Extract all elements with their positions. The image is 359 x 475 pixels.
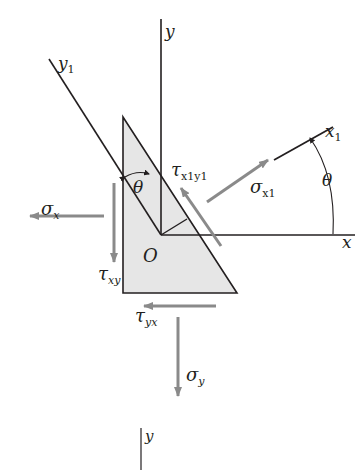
tau-x1y1-label: τx1y1: [171, 159, 207, 183]
tau-yx-label: τyx: [135, 305, 158, 329]
x1-axis-label: x1: [325, 121, 342, 144]
tau-xy-label: τxy: [98, 263, 121, 287]
bottom-y-label: y: [144, 427, 154, 445]
y1-axis-label: y1: [57, 53, 75, 76]
stress-diagram: y y1 x1 x O θ θ σx τxy τyx σy σx1 τx1y1 …: [0, 0, 359, 475]
origin-label: O: [143, 245, 158, 266]
x-axis-label: x: [342, 232, 352, 252]
theta-outer-label: θ: [322, 170, 332, 190]
sigma-x1-label: σx1: [250, 176, 276, 200]
sigma-y-label: σy: [186, 364, 205, 388]
theta-inner-label: θ: [133, 177, 143, 197]
y-axis-label: y: [164, 21, 175, 41]
sigma-x-label: σx: [41, 198, 60, 222]
stress-wedge: [123, 117, 237, 293]
y1-axis: [49, 59, 161, 235]
